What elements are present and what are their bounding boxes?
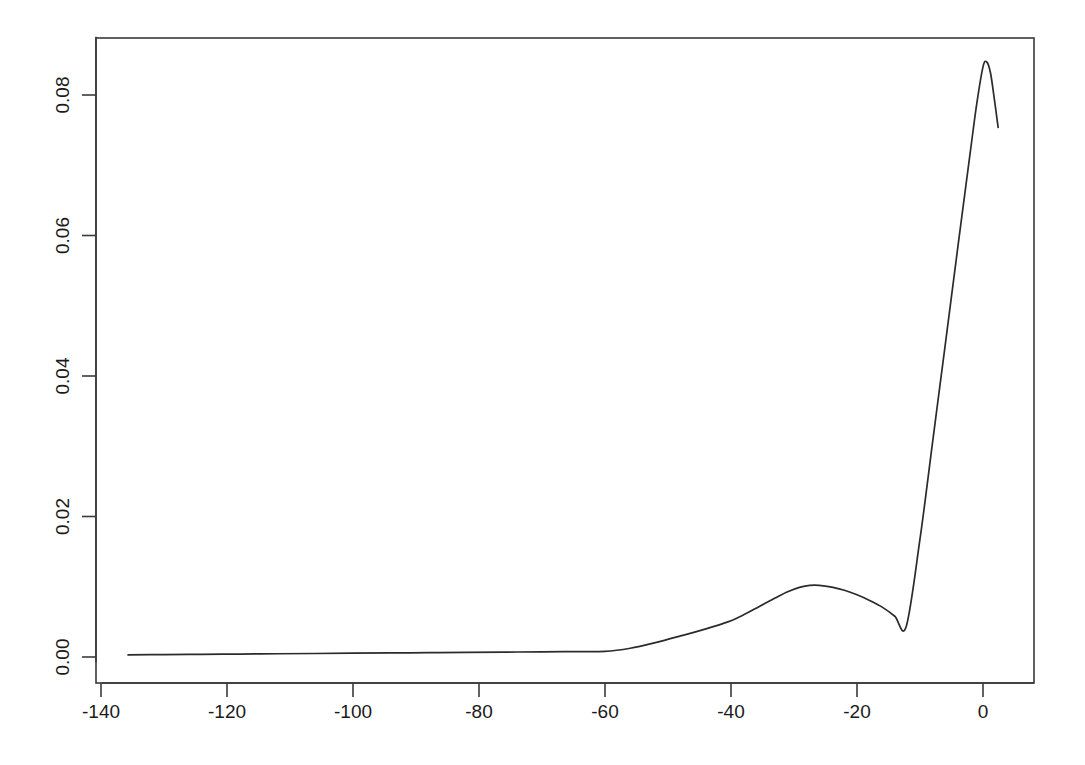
x-tick-label: -100	[334, 701, 372, 722]
chart-figure: 0.000.020.040.060.08 -140-120-100-80-60-…	[0, 0, 1085, 765]
y-tick-label: 0.02	[52, 498, 73, 535]
x-tick-label: -20	[843, 701, 870, 722]
chart-background	[0, 0, 1085, 765]
y-tick-label: 0.00	[52, 639, 73, 676]
y-tick-label: 0.06	[52, 217, 73, 254]
x-tick-label: -80	[465, 701, 492, 722]
x-tick-label: 0	[978, 701, 989, 722]
x-tick-label: -40	[717, 701, 744, 722]
y-tick-label: 0.08	[52, 77, 73, 114]
x-tick-label: -120	[208, 701, 246, 722]
x-tick-label: -140	[82, 701, 120, 722]
y-tick-label: 0.04	[52, 357, 73, 394]
density-line-chart: 0.000.020.040.060.08 -140-120-100-80-60-…	[0, 0, 1085, 765]
x-tick-label: -60	[591, 701, 618, 722]
